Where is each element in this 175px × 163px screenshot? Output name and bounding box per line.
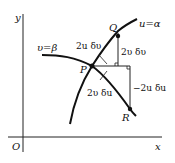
y-axis-label: y (14, 12, 21, 23)
point-q (116, 34, 120, 38)
pq-chord-tick (99, 55, 107, 64)
q-vertical-label: 2υ δυ (121, 47, 146, 57)
v-beta-curve (42, 55, 136, 116)
diagram-svg: O x y u=α υ=β Q P R 2u δυ 2υ δυ 2υ δu −2… (0, 0, 175, 163)
pr-length-label: 2υ δu (87, 88, 112, 98)
point-r-label: R (121, 112, 130, 123)
pq-length-label: 2u δυ (76, 41, 102, 51)
x-axis-label: x (155, 141, 161, 152)
v-beta-label: υ=β (37, 42, 57, 53)
r-vertical-label: −2u δu (133, 83, 166, 93)
diagram-canvas: O x y u=α υ=β Q P R 2u δυ 2υ δυ 2υ δu −2… (0, 0, 175, 163)
point-q-label: Q (109, 22, 117, 33)
point-p-label: P (79, 64, 87, 75)
u-alpha-label: u=α (139, 18, 161, 29)
point-p (90, 64, 95, 69)
origin-label: O (12, 141, 20, 152)
point-r (128, 107, 132, 111)
